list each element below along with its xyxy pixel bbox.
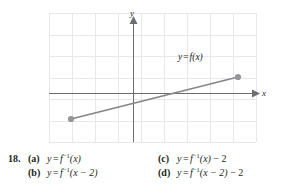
expr-arg-b: (x − 2) [70, 167, 98, 178]
expr-arg-d: (x − 2) [200, 167, 228, 178]
x-axis [49, 90, 260, 98]
question-number: 18. [8, 151, 28, 166]
choice-key-c: (c) [158, 151, 177, 166]
choice-key-d: (d) [158, 165, 177, 180]
y-axis-label: y [130, 9, 134, 18]
curve-eq-rhs: f(x) [190, 52, 203, 62]
curve-endpoint-right [235, 74, 241, 80]
expr-op-a: = [51, 153, 60, 164]
choice-key-a: (a) [28, 151, 47, 166]
expr-inverse-d: −1 [193, 166, 200, 173]
expr-inverse-c: −1 [193, 152, 200, 159]
answer-row-b: (b)y=f−1(x − 2) [8, 165, 98, 180]
expr-op-b: = [51, 167, 60, 178]
expr-op-d: = [181, 167, 190, 178]
expr-arg-c: (x) [200, 153, 211, 164]
choice-expression-b: y=f−1(x − 2) [47, 167, 98, 178]
graph-svg [0, 0, 291, 148]
choice-expression-a: y=f−1(x) [47, 153, 81, 164]
curve-eq-operator: = [182, 52, 189, 62]
x-axis-label: x [262, 89, 266, 98]
expr-arg-a: (x) [70, 153, 81, 164]
expr-tail-c: − 2 [211, 153, 227, 164]
answer-row-d: (d)y=f−1(x − 2) − 2 [158, 165, 243, 180]
answer-row-a: 18.(a)y=f−1(x) [8, 151, 81, 166]
curve-endpoint-left [68, 116, 74, 122]
function-curve [68, 74, 241, 122]
expr-op-c: = [181, 153, 190, 164]
function-graph-figure: y x y=f(x) [0, 0, 291, 148]
choice-expression-d: y=f−1(x − 2) − 2 [177, 167, 243, 178]
choice-key-b: (b) [28, 165, 47, 180]
answer-row-c: (c)y=f−1(x) − 2 [158, 151, 227, 166]
grid-lines [49, 13, 257, 142]
answer-choices-block: 18.(a)y=f−1(x) (b)y=f−1(x − 2) (c)y=f−1(… [0, 148, 291, 193]
choice-expression-c: y=f−1(x) − 2 [177, 153, 227, 164]
curve-equation-label: y=f(x) [178, 53, 203, 63]
expr-inverse-a: −1 [63, 152, 70, 159]
expr-inverse-b: −1 [63, 166, 70, 173]
expr-tail-d: − 2 [228, 167, 244, 178]
